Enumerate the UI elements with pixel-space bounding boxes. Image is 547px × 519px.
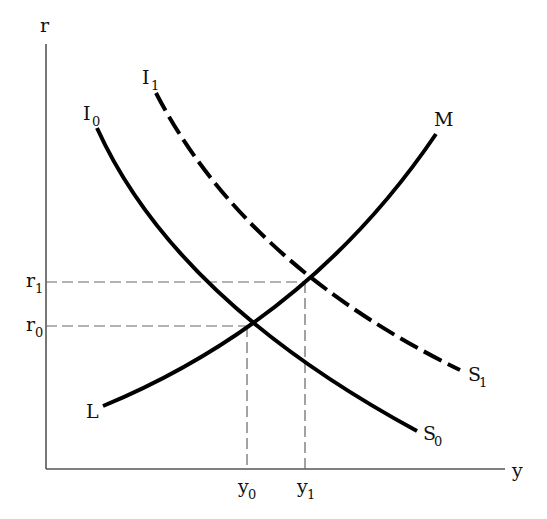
svg-text:1: 1	[35, 281, 43, 296]
svg-text:1: 1	[151, 78, 159, 93]
lm-curve	[103, 134, 436, 406]
guide-lines	[46, 282, 305, 469]
svg-text:1: 1	[479, 375, 487, 390]
is-lm-diagram: r y r 1 r 0 y 0 y 1 I 0 I 1 S 0 S	[0, 0, 547, 519]
svg-text:0: 0	[92, 114, 100, 129]
svg-text:0: 0	[434, 434, 442, 449]
x-axis-label: y	[511, 459, 523, 481]
i0-label: I 0	[83, 102, 100, 129]
l-label: L	[86, 400, 99, 422]
y-axis-label: r	[40, 14, 50, 36]
s1-label: S 1	[468, 363, 487, 390]
is1-curve	[156, 93, 460, 370]
svg-text:0: 0	[35, 325, 43, 340]
s0-label: S 0	[423, 422, 442, 449]
svg-text:I: I	[142, 66, 150, 88]
r1-label: r 1	[26, 269, 43, 296]
i1-label: I 1	[142, 66, 159, 93]
r0-label: r 0	[26, 313, 43, 340]
y0-label: y 0	[237, 475, 256, 502]
svg-text:1: 1	[307, 487, 315, 502]
svg-text:0: 0	[248, 487, 256, 502]
svg-text:I: I	[83, 102, 91, 124]
m-label: M	[434, 108, 453, 130]
y1-label: y 1	[296, 475, 315, 502]
